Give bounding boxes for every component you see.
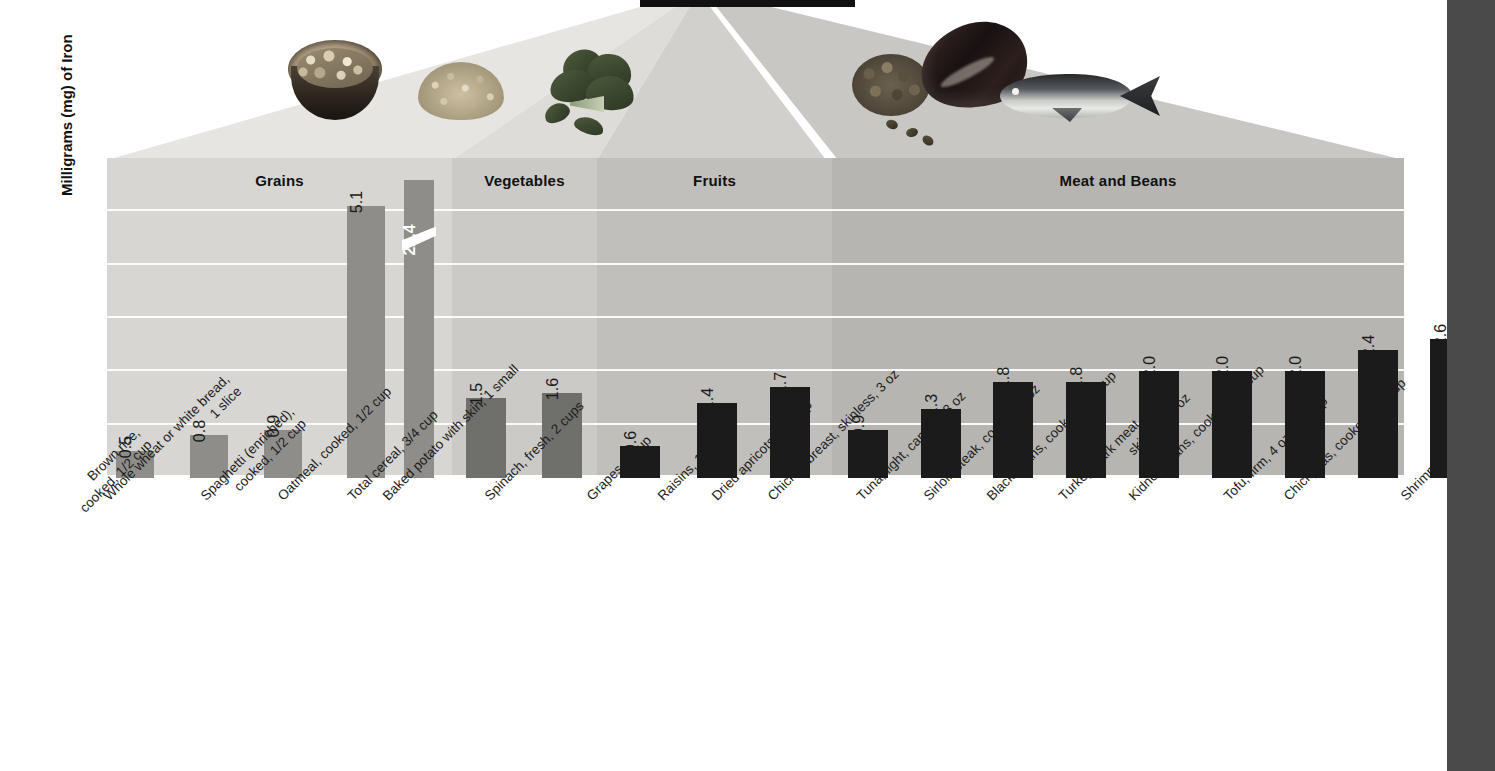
cereal-flakes bbox=[297, 48, 373, 88]
fish-eye bbox=[1012, 88, 1019, 95]
fish-photo bbox=[1000, 68, 1162, 126]
bar-value-label: 2.0 bbox=[1287, 356, 1305, 378]
spinach-leaf bbox=[572, 114, 605, 138]
top-black-strip bbox=[640, 0, 855, 7]
bar-value-label: 1.7 bbox=[772, 372, 790, 394]
bar-value-label: 2.0 bbox=[1214, 356, 1232, 378]
y-axis-title: Milligrams (mg) of Iron bbox=[58, 34, 75, 196]
bar-value-label: 22.4 bbox=[401, 224, 419, 255]
food-pyramid-iron-chart-page: Milligrams (mg) of Iron GrainsVegetables… bbox=[0, 0, 1495, 771]
food-pyramid-backdrop bbox=[0, 0, 1447, 160]
bar-value-label: 1.4 bbox=[699, 388, 717, 410]
bar-value-label: 2.0 bbox=[1141, 356, 1159, 378]
spinach-photo bbox=[540, 48, 636, 140]
bar-value-label: 1.6 bbox=[544, 378, 562, 400]
page-edge-shadow bbox=[1447, 0, 1495, 771]
bar-value-label: 1.8 bbox=[995, 367, 1013, 389]
spinach-leaf bbox=[541, 99, 572, 127]
bar-value-label: 5.1 bbox=[348, 191, 366, 213]
x-axis-labels: Brown rice,cooked, 1/2 cupWhole wheat or… bbox=[0, 484, 1495, 771]
cereal-bowl-photo bbox=[288, 40, 382, 122]
bar-value-label: 2.4 bbox=[1360, 335, 1378, 357]
fish-tail bbox=[1120, 76, 1160, 116]
beans-photo bbox=[852, 54, 930, 116]
bar-value-label: 1.8 bbox=[1068, 367, 1086, 389]
